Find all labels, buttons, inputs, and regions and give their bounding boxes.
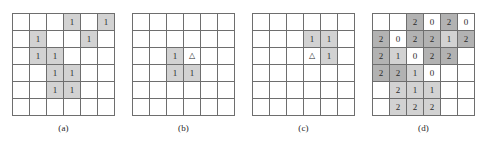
grid-cell[interactable] <box>218 99 235 116</box>
grid-cell[interactable] <box>373 82 390 99</box>
grid-cell[interactable] <box>184 99 201 116</box>
grid-cell[interactable] <box>30 99 47 116</box>
grid-cell[interactable]: 1 <box>30 31 47 48</box>
grid-cell[interactable]: 2 <box>373 65 390 82</box>
grid-cell[interactable]: △ <box>304 48 321 65</box>
grid-cell[interactable]: 0 <box>458 14 475 31</box>
grid-cell[interactable] <box>133 99 150 116</box>
grid-cell[interactable]: 2 <box>407 31 424 48</box>
grid-cell[interactable]: 1 <box>47 82 64 99</box>
grid-cell[interactable] <box>98 48 115 65</box>
grid-cell[interactable] <box>304 14 321 31</box>
grid-cell[interactable]: 1 <box>98 14 115 31</box>
grid-cell[interactable] <box>30 14 47 31</box>
grid-cell[interactable]: 1 <box>167 65 184 82</box>
grid-cell[interactable] <box>338 82 355 99</box>
grid-cell[interactable] <box>253 14 270 31</box>
grid-cell[interactable]: 2 <box>424 31 441 48</box>
grid-cell[interactable] <box>287 48 304 65</box>
grid-cell[interactable]: 2 <box>407 99 424 116</box>
grid-cell[interactable]: 2 <box>424 48 441 65</box>
grid-cell[interactable] <box>458 99 475 116</box>
grid-cell[interactable]: 1 <box>424 82 441 99</box>
grid-cell[interactable] <box>13 14 30 31</box>
grid-cell[interactable]: 1 <box>321 48 338 65</box>
grid-cell[interactable] <box>150 14 167 31</box>
grid-cell[interactable] <box>287 99 304 116</box>
grid-cell[interactable] <box>133 31 150 48</box>
grid-cell[interactable] <box>64 48 81 65</box>
grid-cell[interactable] <box>133 65 150 82</box>
grid-cell[interactable] <box>270 14 287 31</box>
grid-cell[interactable] <box>270 65 287 82</box>
grid-cell[interactable] <box>321 14 338 31</box>
grid-cell[interactable]: 0 <box>390 31 407 48</box>
grid-cell[interactable] <box>287 82 304 99</box>
grid-cell[interactable] <box>201 99 218 116</box>
grid-cell[interactable] <box>30 82 47 99</box>
grid-cell[interactable] <box>13 65 30 82</box>
grid-cell[interactable] <box>441 65 458 82</box>
grid-cell[interactable]: 1 <box>64 82 81 99</box>
grid-cell[interactable]: 1 <box>390 48 407 65</box>
grid-cell[interactable] <box>338 31 355 48</box>
grid-cell[interactable]: 2 <box>373 31 390 48</box>
grid-cell[interactable]: 1 <box>184 65 201 82</box>
grid-cell[interactable]: 1 <box>304 31 321 48</box>
grid-cell[interactable]: 2 <box>390 99 407 116</box>
grid-cell[interactable] <box>253 48 270 65</box>
grid-cell[interactable]: △ <box>184 48 201 65</box>
grid-cell[interactable] <box>321 99 338 116</box>
grid-cell[interactable] <box>287 14 304 31</box>
grid-cell[interactable] <box>150 65 167 82</box>
grid-cell[interactable] <box>98 31 115 48</box>
grid-cell[interactable] <box>81 82 98 99</box>
grid-cell[interactable] <box>47 31 64 48</box>
grid-cell[interactable] <box>338 14 355 31</box>
grid-cell[interactable] <box>218 14 235 31</box>
grid-cell[interactable]: 2 <box>390 82 407 99</box>
grid-cell[interactable] <box>98 65 115 82</box>
grid-cell[interactable] <box>13 31 30 48</box>
grid-cell[interactable] <box>270 31 287 48</box>
grid-cell[interactable] <box>253 31 270 48</box>
grid-cell[interactable] <box>98 99 115 116</box>
grid-cell[interactable] <box>30 65 47 82</box>
grid-cell[interactable] <box>201 65 218 82</box>
grid-cell[interactable] <box>270 48 287 65</box>
grid-cell[interactable]: 2 <box>424 99 441 116</box>
grid-cell[interactable] <box>458 82 475 99</box>
grid-cell[interactable]: 2 <box>441 14 458 31</box>
grid-cell[interactable] <box>150 82 167 99</box>
grid-cell[interactable] <box>64 99 81 116</box>
grid-cell[interactable] <box>253 99 270 116</box>
grid-cell[interactable] <box>338 99 355 116</box>
grid-cell[interactable]: 1 <box>407 65 424 82</box>
grid-cell[interactable]: 2 <box>390 65 407 82</box>
grid-cell[interactable]: 1 <box>47 65 64 82</box>
grid-cell[interactable] <box>287 65 304 82</box>
grid-cell[interactable] <box>321 82 338 99</box>
grid-cell[interactable] <box>321 65 338 82</box>
grid-cell[interactable] <box>270 99 287 116</box>
grid-cell[interactable] <box>201 48 218 65</box>
grid-cell[interactable] <box>373 99 390 116</box>
grid-cell[interactable] <box>287 31 304 48</box>
grid-cell[interactable] <box>81 99 98 116</box>
grid-cell[interactable]: 2 <box>407 14 424 31</box>
grid-cell[interactable]: 2 <box>373 48 390 65</box>
grid-cell[interactable]: 1 <box>81 31 98 48</box>
grid-cell[interactable] <box>201 31 218 48</box>
grid-cell[interactable]: 1 <box>441 31 458 48</box>
grid-cell[interactable] <box>150 31 167 48</box>
grid-cell[interactable] <box>167 31 184 48</box>
grid-cell[interactable] <box>338 65 355 82</box>
grid-cell[interactable]: 1 <box>47 48 64 65</box>
grid-cell[interactable] <box>253 82 270 99</box>
grid-cell[interactable]: 1 <box>30 48 47 65</box>
grid-cell[interactable]: 2 <box>458 31 475 48</box>
grid-cell[interactable] <box>458 48 475 65</box>
grid-cell[interactable] <box>184 31 201 48</box>
grid-cell[interactable] <box>184 82 201 99</box>
grid-cell[interactable] <box>184 14 201 31</box>
